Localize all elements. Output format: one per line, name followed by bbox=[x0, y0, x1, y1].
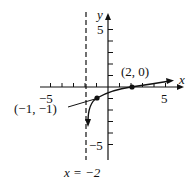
point-label-minus1-minus1: (−1, −1) bbox=[14, 101, 57, 116]
point-2-0 bbox=[129, 84, 134, 89]
x-tick-label-5: 5 bbox=[161, 91, 168, 106]
y-axis-label: y bbox=[95, 7, 103, 22]
y-tick-label-neg5: −5 bbox=[89, 138, 103, 153]
curve-arrow-right-icon bbox=[166, 78, 174, 84]
point-label-2-0: (2, 0) bbox=[121, 64, 149, 79]
graph: x y −5 5 5 −5 (−1, −1) (2, 0) x = −2 bbox=[0, 0, 192, 182]
asymptote-label: x = −2 bbox=[63, 165, 101, 180]
y-tick-label-5: 5 bbox=[97, 22, 104, 37]
x-axis-label: x bbox=[178, 72, 185, 87]
point-minus1-minus1 bbox=[94, 95, 99, 100]
y-axis-arrow-icon bbox=[105, 13, 111, 20]
